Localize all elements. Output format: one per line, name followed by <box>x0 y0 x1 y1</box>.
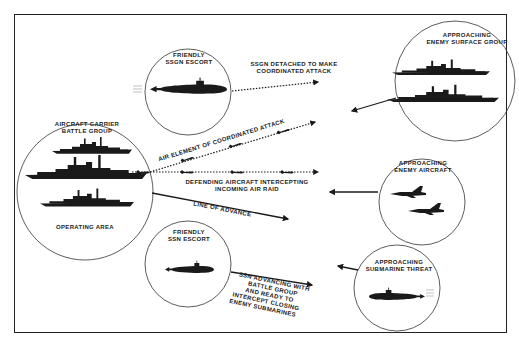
enemy-surface-title-1: APPROACHING <box>443 32 491 38</box>
enemy-surface-title-2: ENEMY SURFACE GROUP <box>427 39 508 45</box>
air-element-route: AIR ELEMENT OF COORDINATED ATTACK <box>150 118 315 172</box>
enemy-surface-arrow <box>352 98 396 111</box>
fighter-jet-icon <box>390 186 444 215</box>
warship-icon <box>387 60 499 103</box>
ssgn-escort-node: FRIENDLY SSGN ESCORT <box>133 52 227 94</box>
defending-aircraft-route: DEFENDING AIRCRAFT INTERCEPTING INCOMING… <box>132 170 318 192</box>
carrier-group-node: AIRCRAFT CARRIER BATTLE GROUP OPERATING … <box>25 121 147 230</box>
ssn-title-2: SSN ESCORT <box>168 236 210 242</box>
ssgn-attack-label-1: SSGN DETACHED TO MAKE <box>250 61 337 67</box>
enemy-aircraft-node: APPROACHING ENEMY AIRCRAFT <box>390 160 452 215</box>
submarine-icon <box>369 288 434 300</box>
ssn-escort-node: FRIENDLY SSN ESCORT <box>165 229 214 273</box>
line-of-advance-label: LINE OF ADVANCE <box>193 200 252 217</box>
carrier-group-footer: OPERATING AREA <box>56 224 114 230</box>
air-element-label: AIR ELEMENT OF COORDINATED ATTACK <box>158 118 286 162</box>
warship-icon <box>25 137 147 207</box>
defending-aircraft-label-1: DEFENDING AIRCRAFT INTERCEPTING <box>185 179 308 185</box>
enemy-aircraft-title-1: APPROACHING <box>399 160 447 166</box>
enemy-submarine-node: APPROACHING SUBMARINE THREAT <box>366 259 434 300</box>
tactical-diagram: AIRCRAFT CARRIER BATTLE GROUP OPERATING … <box>0 0 519 349</box>
ssgn-attack-route: SSGN DETACHED TO MAKE COORDINATED ATTACK <box>232 61 338 91</box>
enemy-submarine-title-1: APPROACHING <box>375 259 423 265</box>
enemy-aircraft-title-2: ENEMY AIRCRAFT <box>394 167 452 173</box>
ssgn-attack-label-2: COORDINATED ATTACK <box>257 68 332 74</box>
submarine-icon <box>165 261 214 273</box>
ssgn-title-2: SSGN ESCORT <box>166 59 213 65</box>
ssn-title-1: FRIENDLY <box>173 229 205 235</box>
ssgn-title-1: FRIENDLY <box>173 52 205 58</box>
carrier-group-title-2: BATTLE GROUP <box>62 128 113 134</box>
enemy-submarine-arrow <box>338 266 358 270</box>
defending-aircraft-label-2: INCOMING AIR RAID <box>215 186 279 192</box>
line-of-advance: LINE OF ADVANCE <box>152 193 288 219</box>
carrier-group-title-1: AIRCRAFT CARRIER <box>55 121 120 127</box>
enemy-submarine-title-2: SUBMARINE THREAT <box>366 266 433 272</box>
enemy-surface-group-node: APPROACHING ENEMY SURFACE GROUP <box>387 32 507 102</box>
ssn-advance-route: SSN ADVANCING WITH BATTLE GROUP AND READ… <box>229 270 312 319</box>
enemy-submarine-circle <box>354 245 440 331</box>
